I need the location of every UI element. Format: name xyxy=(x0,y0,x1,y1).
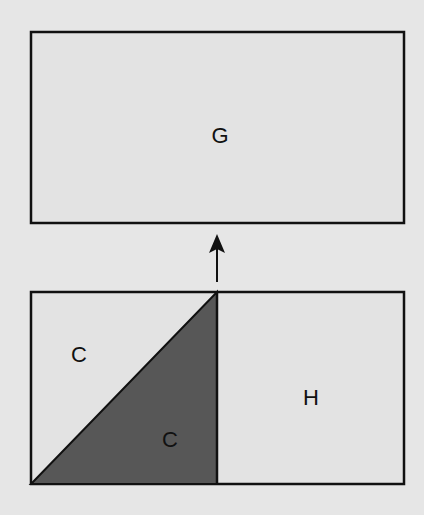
label-c-upper: C xyxy=(71,342,87,367)
top-box-g: G xyxy=(31,32,404,223)
bottom-box: C C H xyxy=(31,292,404,484)
label-c-lower: C xyxy=(162,427,178,452)
label-h: H xyxy=(303,385,319,410)
diagram-canvas: G C C H xyxy=(0,0,424,515)
up-arrow-icon xyxy=(209,234,225,282)
label-g: G xyxy=(211,123,228,148)
